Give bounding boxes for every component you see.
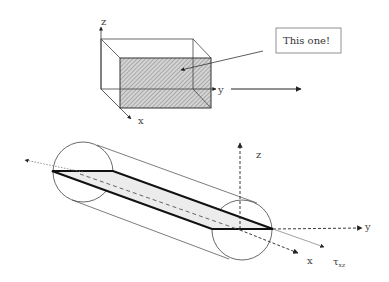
callout-text: This one!: [283, 35, 330, 46]
shear-stress-arrow: [273, 229, 324, 247]
box-x-label: x: [138, 115, 144, 126]
cyl-x-axis: [240, 230, 298, 253]
cylinder-diagram: z y x τxz: [25, 142, 371, 268]
diagram-canvas: z y x This one! z y x τx: [0, 0, 389, 282]
cyl-x-label: x: [307, 255, 313, 266]
shear-stress-label: τxz: [333, 256, 345, 268]
box-z-label: z: [101, 16, 106, 27]
cyl-z-label: z: [256, 149, 261, 160]
box-diagram: z y x This one!: [101, 16, 341, 126]
box-y-label: y: [217, 84, 224, 95]
highlighted-front-face: [120, 58, 211, 108]
cyl-y-label: y: [364, 221, 371, 232]
cyl-y-axis: [273, 228, 362, 229]
